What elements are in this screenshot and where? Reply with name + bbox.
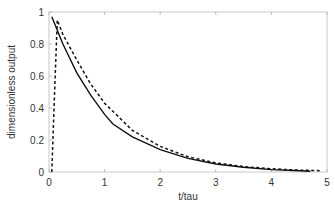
y-axis-label: dimensionless output [6, 45, 17, 139]
plot-area [49, 12, 327, 172]
x-tick-label: 1 [102, 177, 108, 188]
x-tick-label: 4 [269, 177, 275, 188]
x-axis-ticks: 012345 [46, 12, 330, 188]
x-tick-label: 0 [46, 177, 52, 188]
y-tick-label: 0.6 [30, 71, 44, 82]
series-solid [52, 17, 311, 171]
x-axis-label: t/tau [178, 191, 197, 202]
chart: 00.20.40.60.81 012345 t/tau dimensionles… [0, 0, 335, 215]
x-tick-label: 5 [324, 177, 330, 188]
x-tick-label: 3 [213, 177, 219, 188]
y-tick-label: 0.8 [30, 39, 44, 50]
y-tick-label: 1 [38, 7, 44, 18]
y-tick-label: 0.4 [30, 103, 44, 114]
y-tick-label: 0.2 [30, 135, 44, 146]
series-dashed [52, 20, 322, 172]
y-tick-label: 0 [38, 167, 44, 178]
x-tick-label: 2 [157, 177, 163, 188]
series-lines [52, 17, 322, 172]
